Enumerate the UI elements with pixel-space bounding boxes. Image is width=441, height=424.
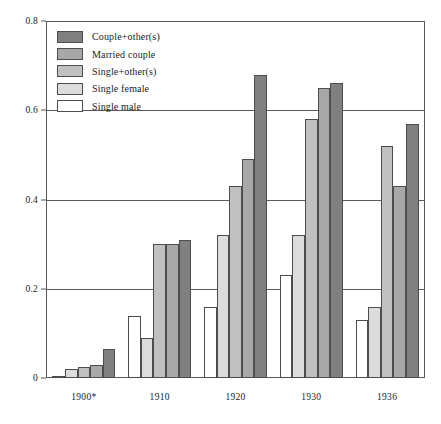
x-axis: 1900*1910192019301936 <box>46 378 425 424</box>
x-tick-label: 1930 <box>301 392 321 402</box>
bar <box>368 307 381 378</box>
bar <box>406 124 419 378</box>
bar <box>128 316 141 378</box>
bar <box>217 235 230 378</box>
legend-item-label: Single female <box>92 83 149 94</box>
bar <box>229 186 242 378</box>
legend-swatch-icon <box>57 65 83 77</box>
bar <box>141 338 154 378</box>
legend-swatch-icon <box>57 48 83 60</box>
bar <box>292 235 305 378</box>
bar <box>318 88 331 378</box>
y-tick-label: 0 <box>33 373 38 383</box>
bar-group <box>356 21 419 378</box>
legend: Couple+other(s)Married coupleSingle+othe… <box>57 28 160 115</box>
bar <box>305 119 318 378</box>
bar-chart: 00.20.40.60.8 1900*1910192019301936 Coup… <box>0 0 441 424</box>
x-tick-label: 1910 <box>150 392 170 402</box>
x-tick-label: 1936 <box>377 392 397 402</box>
y-tick-label: 0.8 <box>26 16 38 26</box>
x-tick-label: 1900* <box>71 392 96 402</box>
bar <box>52 376 65 378</box>
y-tick-label: 0.2 <box>26 284 38 294</box>
bar <box>330 83 343 378</box>
legend-item-label: Single+other(s) <box>92 66 157 77</box>
y-axis: 00.20.40.60.8 <box>0 0 46 400</box>
bar-group <box>280 21 343 378</box>
bar <box>381 146 394 378</box>
x-tick-label: 1920 <box>225 392 245 402</box>
bar <box>356 320 369 378</box>
bar <box>65 369 78 378</box>
legend-item-label: Married couple <box>92 49 155 60</box>
bar <box>78 367 91 378</box>
legend-item: Couple+other(s) <box>57 28 160 45</box>
legend-item: Married couple <box>57 45 160 62</box>
y-tick-label: 0.4 <box>26 195 38 205</box>
legend-item: Single+other(s) <box>57 63 160 80</box>
legend-item-label: Couple+other(s) <box>92 31 160 42</box>
legend-swatch-icon <box>57 83 83 95</box>
bar <box>166 244 179 378</box>
legend-swatch-icon <box>57 31 83 43</box>
bar <box>153 244 166 378</box>
bar-group <box>204 21 267 378</box>
bar <box>90 365 103 378</box>
bar <box>103 349 116 378</box>
bar <box>179 240 192 378</box>
bar <box>204 307 217 378</box>
bar <box>393 186 406 378</box>
bar <box>280 275 293 378</box>
y-tick-label: 0.6 <box>26 105 38 115</box>
bar <box>242 159 255 378</box>
legend-item: Single female <box>57 80 160 97</box>
legend-item: Single male <box>57 98 160 115</box>
legend-swatch-icon <box>57 100 83 112</box>
bar <box>254 75 267 378</box>
legend-item-label: Single male <box>92 101 141 112</box>
